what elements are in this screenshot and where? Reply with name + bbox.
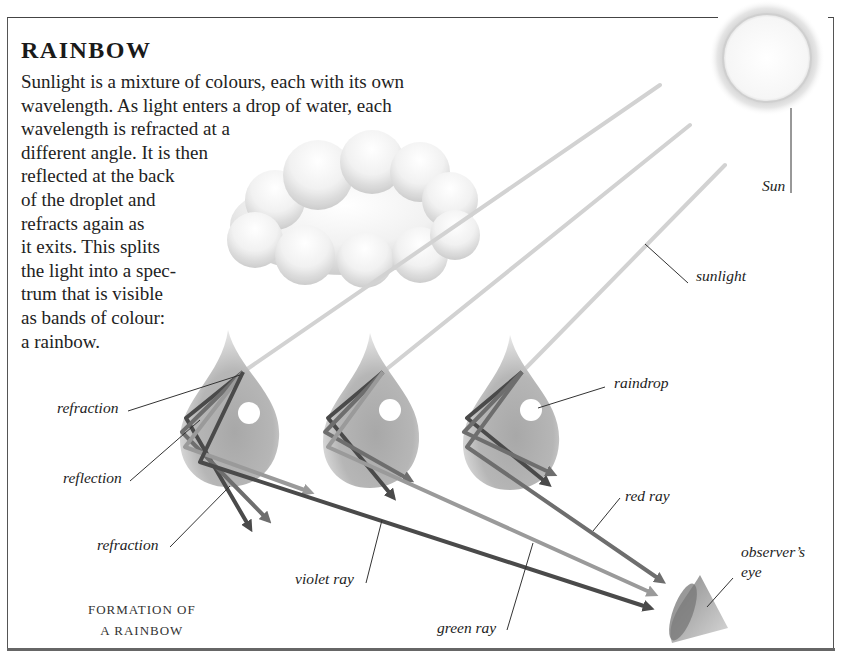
refraction-in-label: refraction — [57, 399, 118, 417]
intro-line: Sunlight is a mixture of colours, each w… — [21, 70, 404, 94]
sun-icon — [709, 0, 825, 116]
intro-line: as bands of colour: — [21, 306, 404, 330]
caption-line-2: A RAINBOW — [88, 620, 196, 641]
violet-ray-label: violet ray — [295, 570, 354, 588]
violet-ray-leader — [366, 520, 382, 583]
raindrop-label: raindrop — [614, 374, 669, 392]
intro-line: trum that is visible — [21, 282, 404, 306]
green-ray-label: green ray — [437, 619, 496, 637]
intro-line: reflected at the back — [21, 164, 404, 188]
intro-line: it exits. This splits — [21, 235, 404, 259]
intro-line: a rainbow. — [21, 330, 404, 354]
refraction-out-label: refraction — [97, 536, 158, 554]
intro-paragraph: Sunlight is a mixture of colours, each w… — [21, 70, 404, 353]
intro-line: wavelength is refracted at a — [21, 117, 404, 141]
sunlight-label: sunlight — [696, 267, 746, 285]
observer-eye-leader — [707, 578, 733, 607]
raindrop-leader — [538, 387, 605, 408]
intro-line: refracts again as — [21, 212, 404, 236]
intro-line: different angle. It is then — [21, 141, 404, 165]
figure-caption: FORMATION OF A RAINBOW — [88, 599, 196, 641]
raindrop-3 — [463, 335, 559, 490]
observer-eye-label-line1: observer’s — [741, 543, 805, 561]
observer-eye-icon — [663, 575, 728, 644]
sunlight-beam-3 — [522, 165, 725, 372]
refraction-out-leader — [170, 486, 230, 547]
intro-line: of the droplet and — [21, 188, 404, 212]
observer-eye-label-line2: eye — [741, 563, 762, 581]
reflection-label: reflection — [63, 469, 122, 487]
sun-label: Sun — [762, 177, 785, 195]
green-ray-leader — [507, 543, 533, 630]
caption-line-1: FORMATION OF — [88, 599, 196, 620]
page-title: RAINBOW — [21, 37, 152, 64]
sunlight-leader-line — [645, 244, 688, 283]
red-ray-label: red ray — [625, 487, 670, 505]
intro-line: the light into a spec- — [21, 259, 404, 283]
intro-line: wavelength. As light enters a drop of wa… — [21, 94, 404, 118]
red-ray-leader — [593, 498, 620, 531]
